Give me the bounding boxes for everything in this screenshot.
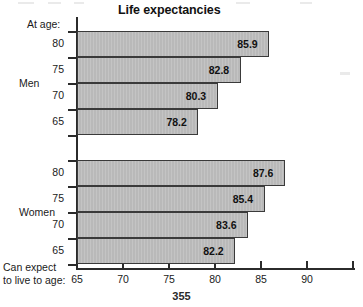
y-axis-tick-label: 70 <box>36 89 64 101</box>
x-axis-caption-line2: to live to age: <box>3 274 65 287</box>
bar-value-label: 85.9 <box>237 38 257 50</box>
page-number: 355 <box>0 290 363 302</box>
y-axis-tick-label: 75 <box>36 192 64 204</box>
bar-value-label: 82.2 <box>203 245 223 257</box>
scan-artifact <box>236 2 250 4</box>
bar-value-label: 87.6 <box>253 167 273 179</box>
y-axis-tick <box>68 57 77 59</box>
y-axis-tick <box>68 186 77 188</box>
bar-value-label: 78.2 <box>166 116 186 128</box>
x-axis-tick-label: 90 <box>301 273 313 285</box>
x-axis-tick-label: 70 <box>117 273 129 285</box>
x-axis-caption-line1: Can expect <box>3 261 65 274</box>
x-axis-tick-label: 85 <box>255 273 267 285</box>
x-axis-tick <box>260 261 262 269</box>
y-axis-tick-label: 65 <box>36 115 64 127</box>
bar-value-label: 80.3 <box>186 90 206 102</box>
x-axis-tick-label: 65 <box>71 273 83 285</box>
y-axis-tick-label: 75 <box>36 63 64 75</box>
bar-value-label: 85.4 <box>233 193 253 205</box>
group-label-women: Women <box>19 206 55 218</box>
scan-artifact <box>300 2 312 4</box>
bar-value-label: 82.8 <box>209 64 229 76</box>
y-axis-tick <box>68 135 77 137</box>
x-axis-tick <box>352 261 354 269</box>
y-axis-tick <box>68 160 77 162</box>
x-axis-tick-label: 80 <box>209 273 221 285</box>
scan-artifact <box>340 72 350 75</box>
group-label-men: Men <box>19 77 39 89</box>
x-axis-caption: Can expect to live to age: <box>3 261 65 286</box>
bar-value-label: 83.6 <box>216 219 236 231</box>
y-axis-tick <box>68 109 77 111</box>
scan-artifact <box>18 2 34 4</box>
y-axis-tick-label: 80 <box>36 166 64 178</box>
y-axis-tick <box>68 83 77 85</box>
scan-artifact <box>74 2 84 4</box>
y-axis-tick-label: 65 <box>36 244 64 256</box>
x-axis-tick <box>306 261 308 269</box>
y-axis-tick-label: 80 <box>36 37 64 49</box>
y-axis-tick <box>68 212 77 214</box>
scan-artifact <box>48 2 61 4</box>
x-axis-tick-label: 75 <box>163 273 175 285</box>
chart-title: Life expectancies <box>118 3 221 17</box>
y-axis-tick <box>68 31 77 33</box>
y-axis-tick <box>68 264 77 266</box>
y-axis-tick <box>68 238 77 240</box>
life-expectancy-chart: Life expectancies At age: Can expect to … <box>0 0 363 307</box>
y-axis-tick-label: 70 <box>36 218 64 230</box>
y-axis-caption: At age: <box>27 18 60 30</box>
